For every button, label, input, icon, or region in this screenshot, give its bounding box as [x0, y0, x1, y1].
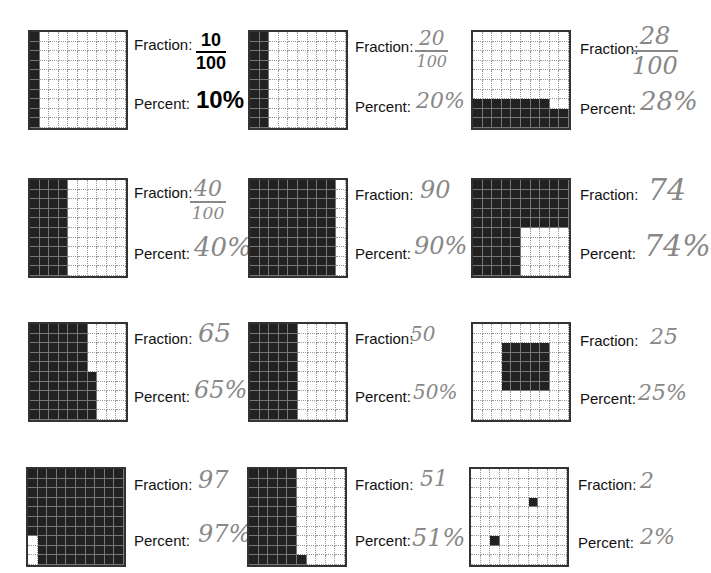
grid-square [531, 343, 541, 353]
grid-square [28, 517, 38, 527]
grid-square [327, 324, 337, 334]
grid-square [68, 382, 78, 392]
grid-square [511, 70, 521, 80]
grid-square [511, 32, 521, 42]
grid-square [30, 353, 40, 363]
grid-square [105, 479, 115, 489]
grid-square [483, 372, 493, 382]
grid-square [327, 353, 337, 363]
grid-square [59, 228, 69, 238]
grid-square [473, 99, 483, 109]
hundred-grid [469, 467, 569, 567]
grid-square [327, 99, 337, 109]
grid-square [297, 488, 307, 498]
grid-square [298, 70, 308, 80]
grid-square [105, 517, 115, 527]
grid-square [298, 42, 308, 52]
grid-square [114, 527, 124, 537]
grid-square [326, 555, 336, 565]
grid-square [86, 507, 96, 517]
grid-square [490, 498, 500, 508]
grid-square [559, 382, 569, 392]
grid-square [511, 180, 521, 190]
grid-square [116, 343, 126, 353]
grid-square [308, 410, 318, 420]
grid-square [326, 498, 336, 508]
fraction-answer: 97 [198, 466, 229, 494]
grid-square [550, 362, 560, 372]
grid-square [116, 391, 126, 401]
grid-square [531, 410, 541, 420]
grid-square [28, 498, 38, 508]
grid-square [521, 334, 531, 344]
grid-square [107, 32, 117, 42]
grid-square [49, 80, 59, 90]
grid-square [483, 401, 493, 411]
percent-label: Percent: [580, 100, 636, 117]
grid-square [97, 247, 107, 257]
grid-square [78, 334, 88, 344]
fraction-label: Fraction: [134, 476, 192, 493]
grid-square [259, 527, 269, 537]
grid-square [521, 118, 531, 128]
grid-square [473, 51, 483, 61]
grid-square [473, 90, 483, 100]
grid-square [559, 42, 569, 52]
grid-square [68, 109, 78, 119]
grid-square [107, 180, 117, 190]
grid-square [78, 190, 88, 200]
grid-square [511, 80, 521, 90]
grid-square [540, 32, 550, 42]
hundred-grid [28, 178, 128, 278]
grid-square [298, 180, 308, 190]
grid-square [268, 507, 278, 517]
grid-square [308, 190, 318, 200]
grid-square [278, 555, 288, 565]
grid-square [521, 32, 531, 42]
grid-square [78, 353, 88, 363]
grid-square [278, 479, 288, 489]
grid-square [38, 488, 48, 498]
grid-square [483, 61, 493, 71]
grid-square [297, 479, 307, 489]
grid-square [288, 401, 298, 411]
grid-square [250, 218, 260, 228]
grid-square [97, 372, 107, 382]
grid-square [336, 343, 346, 353]
grid-square [287, 479, 297, 489]
grid-square [529, 546, 539, 556]
grid-square [529, 555, 539, 565]
grid-square [540, 109, 550, 119]
grid-square [279, 70, 289, 80]
grid-square [308, 362, 318, 372]
grid-square [40, 238, 50, 248]
grid-square [298, 353, 308, 363]
grid-square [76, 517, 86, 527]
grid-square [40, 372, 50, 382]
grid-square [97, 324, 107, 334]
grid-square [95, 527, 105, 537]
grid-square [40, 218, 50, 228]
grid-square [68, 343, 78, 353]
grid-square [559, 266, 569, 276]
grid-square [97, 199, 107, 209]
grid-square [307, 555, 317, 565]
grid-square [268, 479, 278, 489]
percent-label: Percent: [355, 245, 411, 262]
grid-square [78, 209, 88, 219]
grid-square [116, 362, 126, 372]
grid-square [521, 372, 531, 382]
grid-square [502, 372, 512, 382]
grid-square [327, 382, 337, 392]
grid-square [105, 469, 115, 479]
grid-square [59, 199, 69, 209]
grid-square [68, 218, 78, 228]
grid-square [519, 555, 529, 565]
grid-square [483, 42, 493, 52]
grid-square [279, 32, 289, 42]
grid-square [521, 199, 531, 209]
grid-square [260, 109, 270, 119]
grid-square [116, 247, 126, 257]
grid-square [40, 61, 50, 71]
grid-square [59, 32, 69, 42]
